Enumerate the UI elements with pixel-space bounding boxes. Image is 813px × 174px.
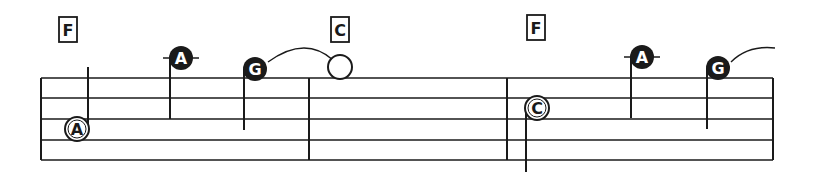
chord-label-f: F [63,21,74,40]
note-name-g: G [248,60,261,79]
note-name-a: A [71,120,84,139]
tie [268,48,333,62]
tie [731,48,775,62]
note-name-c: C [531,99,543,118]
note-name-a: A [175,49,188,68]
chord-label-f: F [531,19,542,38]
note-name-a: A [636,48,649,67]
chord-label-c: C [334,21,346,40]
note-name-g: G [711,59,724,78]
whole-note-head [328,55,352,79]
music-staff: FCFAAGCAG [0,0,813,174]
